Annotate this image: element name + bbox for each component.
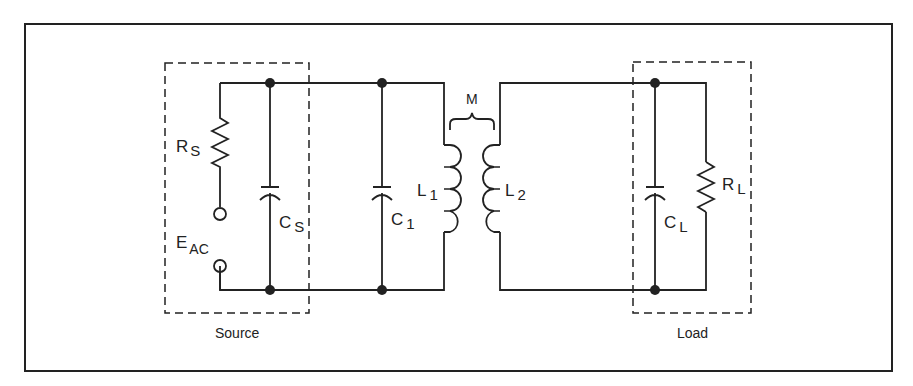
junction-dot <box>377 285 387 295</box>
bottom-wire-primary <box>220 232 444 290</box>
mutual-brace-icon <box>450 113 494 130</box>
top-wire-secondary <box>500 83 706 162</box>
junction-dot <box>650 78 660 88</box>
rs-resistor-icon <box>212 83 228 207</box>
l2-label: L2 <box>505 181 526 203</box>
c1-capacitor-icon <box>372 83 392 290</box>
cs-label: CS <box>279 213 304 235</box>
circuit-diagram: RS EAC CS C1 L1 L2 M CL RL Source Load <box>0 0 913 386</box>
l1-label: L1 <box>417 181 438 203</box>
load-label: Load <box>677 325 708 341</box>
source-box <box>165 63 309 313</box>
top-wire-primary <box>220 83 444 145</box>
junction-dot <box>265 78 275 88</box>
cl-capacitor-icon <box>645 83 665 290</box>
source-label: Source <box>215 325 260 341</box>
cs-capacitor-icon <box>260 83 280 290</box>
rl-resistor-icon <box>698 162 714 212</box>
junction-dot <box>265 285 275 295</box>
eac-terminal-top <box>214 208 226 220</box>
junction-dot <box>377 78 387 88</box>
junction-dot <box>650 285 660 295</box>
c1-label: C1 <box>391 210 415 232</box>
m-label: M <box>466 91 478 107</box>
rl-label: RL <box>722 175 746 197</box>
rs-label: RS <box>176 137 200 159</box>
outer-frame <box>25 24 892 371</box>
eac-label: EAC <box>176 233 209 257</box>
cl-label: CL <box>664 213 688 235</box>
